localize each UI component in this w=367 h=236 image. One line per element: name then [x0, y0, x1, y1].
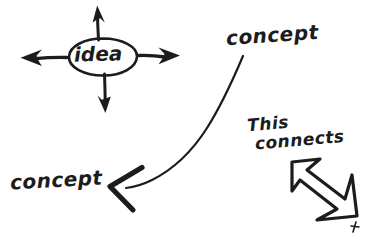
arrow-down-shaft — [105, 74, 106, 101]
label-idea: idea — [74, 43, 123, 66]
block-arrow-icon — [292, 159, 357, 220]
arrow-right-shaft — [139, 55, 165, 57]
sketch-canvas: idea concept concept Thisconnects — [0, 0, 367, 236]
arrow-left-shaft — [35, 57, 67, 58]
stray-tick-icon — [351, 222, 359, 232]
label-concept-bottom-left: concept — [10, 168, 104, 194]
